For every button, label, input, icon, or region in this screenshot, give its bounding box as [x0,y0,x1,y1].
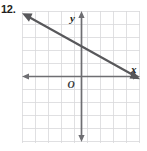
y-axis-label: y [68,12,75,24]
problem-number-label: 12. [1,4,15,15]
coordinate-plane: y x O [22,11,140,143]
origin-label: O [67,79,74,90]
coordinate-plane-svg: y x O [22,11,140,143]
x-axis-label: x [130,63,137,75]
graph-figure: 12. [0,0,147,151]
